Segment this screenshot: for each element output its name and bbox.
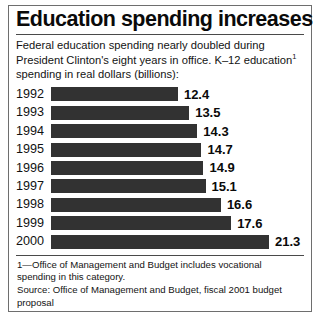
source-text: Source: Office of Management and Budget,…: [17, 284, 303, 309]
bar-category-label: 1996: [16, 162, 51, 175]
bar-row: 199614.9: [16, 159, 304, 177]
footnote-marker: 1: [292, 52, 296, 61]
bar: [51, 143, 201, 157]
bar-track: 16.6: [51, 196, 304, 214]
bar-value-label: 12.4: [184, 88, 209, 101]
bar-category-label: 1999: [16, 217, 51, 230]
bar-row: 199816.6: [16, 196, 304, 214]
bar: [51, 161, 203, 175]
bar-value-label: 21.3: [275, 235, 300, 248]
bar: [51, 198, 221, 212]
bar-track: 15.1: [51, 177, 304, 195]
page-title: Education spending increases: [16, 8, 304, 31]
subtitle-text-tail: spending in real dollars (billions):: [16, 68, 179, 80]
bar-value-label: 14.3: [203, 125, 228, 138]
bar-track: 12.4: [51, 85, 304, 103]
bar-row: 199715.1: [16, 177, 304, 195]
bar: [51, 179, 206, 193]
bar-value-label: 13.5: [195, 106, 220, 119]
chart-figure: Education spending increases Federal edu…: [8, 5, 312, 312]
bar-row: 199917.6: [16, 214, 304, 232]
bar: [51, 106, 189, 120]
bar-row: 199414.3: [16, 122, 304, 140]
chart-notes: 1—Office of Management and Budget includ…: [9, 256, 311, 310]
bar-track: 14.9: [51, 159, 304, 177]
bar-track: 13.5: [51, 104, 304, 122]
bar-category-label: 1994: [16, 125, 51, 138]
bar-chart-plot: 199212.4199313.5199414.3199514.7199614.9…: [9, 85, 311, 251]
title-block: Education spending increases: [9, 6, 311, 31]
bar-track: 21.3: [51, 232, 304, 250]
bar-row: 199313.5: [16, 104, 304, 122]
bar: [51, 235, 269, 249]
subtitle-text: Federal education spending nearly double…: [16, 39, 292, 65]
bar: [51, 124, 197, 138]
bar-row: 199514.7: [16, 140, 304, 158]
bar-category-label: 1998: [16, 198, 51, 211]
footnote-text: 1—Office of Management and Budget includ…: [17, 259, 303, 284]
bar-row: 200021.3: [16, 232, 304, 250]
bar-value-label: 17.6: [237, 217, 262, 230]
bar-category-label: 1995: [16, 143, 51, 156]
bar-row: 199212.4: [16, 85, 304, 103]
bar-value-label: 14.9: [209, 161, 234, 174]
bar: [51, 87, 178, 101]
bar-category-label: 1997: [16, 180, 51, 193]
bar-value-label: 14.7: [207, 143, 232, 156]
bar-track: 17.6: [51, 214, 304, 232]
bar-track: 14.3: [51, 122, 304, 140]
bar-category-label: 2000: [16, 235, 51, 248]
bar: [51, 216, 231, 230]
bar-track: 14.7: [51, 140, 304, 158]
bar-category-label: 1992: [16, 88, 51, 101]
bar-value-label: 16.6: [227, 198, 252, 211]
bar-value-label: 15.1: [212, 180, 237, 193]
bar-category-label: 1993: [16, 106, 51, 119]
chart-subtitle: Federal education spending nearly double…: [9, 35, 311, 81]
